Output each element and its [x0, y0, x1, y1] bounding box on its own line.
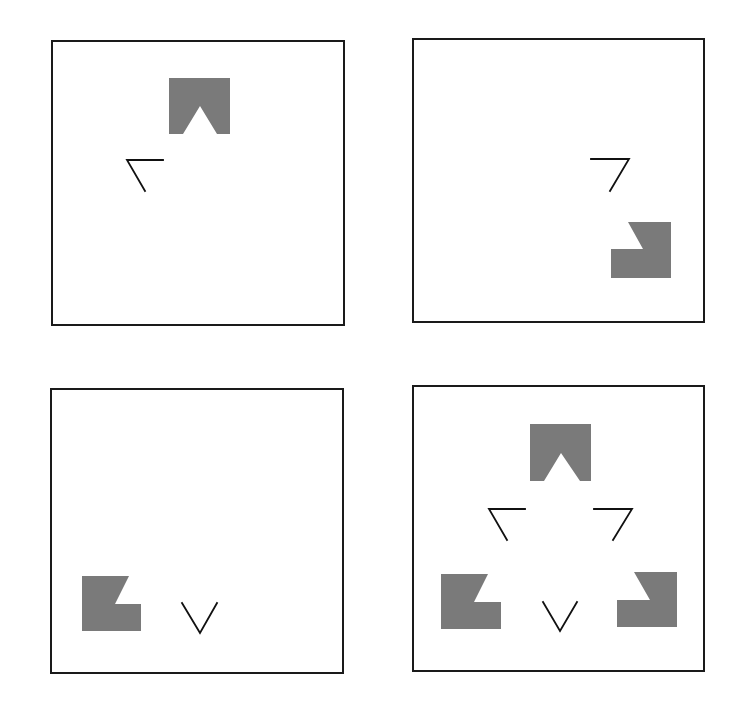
contour-bottom-v: [543, 602, 577, 631]
inducer-bottom-right-notched-square: [617, 572, 677, 627]
inducer-top-notched-square: [530, 424, 591, 481]
panel-top-right: [413, 39, 704, 322]
panel-bottom-right: [413, 386, 704, 671]
inducer-bottom-left-notched-square: [82, 576, 141, 631]
inducer-bottom-left-notched-square: [441, 574, 501, 629]
inducer-top-notched-square: [169, 78, 230, 134]
contour-left-angle: [489, 509, 525, 540]
contour-right-angle: [591, 159, 629, 191]
contour-bottom-v: [182, 603, 217, 633]
contour-right-angle: [594, 509, 632, 540]
kanizsa-figure: [0, 0, 739, 707]
contour-left-angle: [127, 160, 163, 191]
panel-top-left: [52, 41, 344, 325]
panel-bottom-left: [51, 389, 343, 673]
panel-frame: [413, 39, 704, 322]
inducer-bottom-right-notched-square: [611, 222, 671, 278]
